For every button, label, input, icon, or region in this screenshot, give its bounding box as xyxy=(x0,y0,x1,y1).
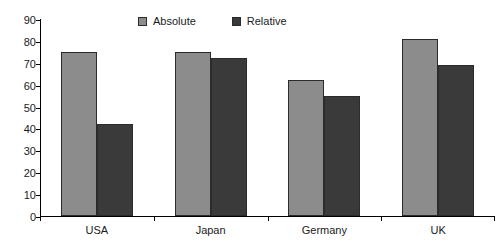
bar-chart: Absolute Relative 0102030405060708090 US… xyxy=(0,0,504,249)
y-axis-tick xyxy=(36,151,40,152)
x-axis-tick xyxy=(154,217,155,221)
bar-japan-absolute xyxy=(175,52,211,216)
y-axis-tick xyxy=(36,20,40,21)
x-axis-tick xyxy=(381,217,382,221)
y-axis-tick-label: 60 xyxy=(24,80,36,91)
bar-uk-absolute xyxy=(402,39,438,216)
y-axis-tick xyxy=(36,42,40,43)
x-axis-category-label-uk: UK xyxy=(430,225,445,236)
y-axis-tick xyxy=(36,195,40,196)
y-axis-tick xyxy=(36,64,40,65)
y-axis-tick-label: 40 xyxy=(24,124,36,135)
y-axis-tick-label: 20 xyxy=(24,168,36,179)
y-axis-tick-label: 0 xyxy=(30,212,36,223)
x-axis-category-label-germany: Germany xyxy=(302,225,347,236)
bar-germany-absolute xyxy=(288,80,324,216)
y-axis-tick xyxy=(36,86,40,87)
bar-uk-relative xyxy=(438,65,474,216)
y-axis-tick xyxy=(36,108,40,109)
y-axis-line xyxy=(40,19,41,217)
bar-germany-relative xyxy=(324,96,360,216)
x-axis-tick xyxy=(40,217,41,221)
y-axis-tick-label: 10 xyxy=(24,190,36,201)
x-axis-category-label-japan: Japan xyxy=(196,225,226,236)
y-axis-tick-label: 50 xyxy=(24,102,36,113)
bar-japan-relative xyxy=(211,58,247,216)
bar-usa-absolute xyxy=(61,52,97,216)
y-axis-tick-label: 70 xyxy=(24,58,36,69)
x-axis-tick xyxy=(268,217,269,221)
y-axis-tick-label: 90 xyxy=(24,15,36,26)
x-axis-category-label-usa: USA xyxy=(86,225,109,236)
y-axis-tick xyxy=(36,129,40,130)
y-axis-tick xyxy=(36,173,40,174)
y-axis-tick-label: 30 xyxy=(24,146,36,157)
plot-area: 0102030405060708090 USAJapanGermanyUK xyxy=(40,19,495,217)
y-axis-tick-label: 80 xyxy=(24,36,36,47)
x-axis-tick xyxy=(494,217,495,221)
bar-usa-relative xyxy=(97,124,133,216)
